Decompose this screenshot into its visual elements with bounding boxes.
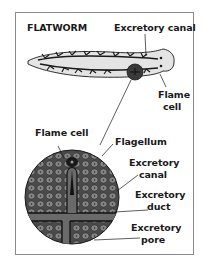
label-excretory-canal-detail-line2: canal [139, 169, 167, 180]
label-excretory-pore-line1: Excretory [131, 222, 181, 233]
label-flame-cell-detail: Flame cell [35, 127, 88, 138]
label-flame-cell-top-line2: cell [163, 101, 181, 112]
flame-cell-detail-circle [20, 150, 130, 251]
label-excretory-duct-line2: duct [147, 201, 170, 212]
label-excretory-pore-line2: pore [141, 234, 165, 245]
flatworm-body [28, 49, 174, 80]
label-flame-cell-top-line1: Flame [158, 89, 190, 100]
label-flagellum: Flagellum [115, 136, 167, 147]
label-excretory-canal-detail-line1: Excretory [129, 157, 179, 168]
diagram-title: FLATWORM [27, 22, 87, 33]
label-excretory-canal-top: Excretory canal [114, 22, 196, 33]
label-excretory-duct-line1: Excretory [135, 189, 185, 200]
